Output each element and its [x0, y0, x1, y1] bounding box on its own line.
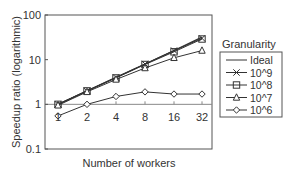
legend-title: Granularity	[222, 38, 276, 50]
legend-label: 10^8	[250, 79, 273, 91]
y-tick-label: 1	[35, 98, 41, 110]
plot-area	[45, 15, 212, 149]
x-axis-label: Number of workers	[83, 157, 176, 169]
x-tick-label: 32	[196, 111, 208, 123]
legend-label: 10^9	[250, 67, 273, 79]
y-tick-label: 100	[23, 9, 41, 21]
x-tick-label: 4	[113, 111, 119, 123]
x-axis-ticks: 12481632	[55, 111, 208, 123]
x-tick-label: 8	[142, 111, 148, 123]
x-tick-label: 1	[55, 111, 61, 123]
plot-border	[45, 15, 212, 149]
y-axis-label: Speedup ratio (logarithmic)	[10, 16, 22, 148]
y-tick-label: 10	[29, 54, 41, 66]
legend-label: Ideal	[250, 54, 273, 66]
speedup-chart: 0.1110100 12481632 Speedup ratio (logari…	[0, 0, 286, 176]
legend-label: 10^6	[250, 104, 273, 116]
y-axis-ticks: 0.1110100	[23, 9, 48, 155]
series-layer	[55, 35, 205, 119]
x-tick-label: 2	[84, 111, 90, 123]
chart-svg: 0.1110100 12481632 Speedup ratio (logari…	[0, 0, 286, 176]
legend: Ideal10^910^810^710^6	[220, 52, 282, 117]
y-tick-label: 0.1	[26, 143, 41, 155]
reference-line-1	[45, 101, 212, 104]
series-107	[55, 47, 205, 108]
legend-label: 10^7	[250, 92, 273, 104]
x-tick-label: 16	[168, 111, 180, 123]
